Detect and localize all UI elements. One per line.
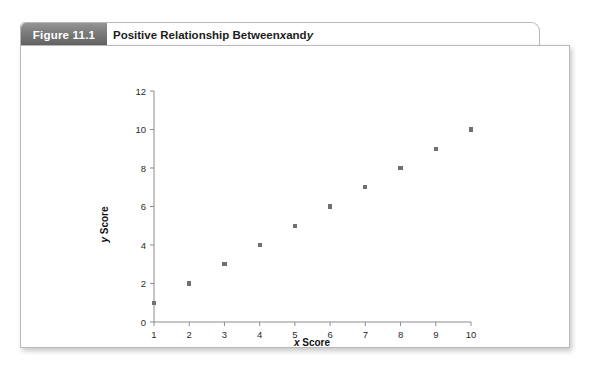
x-axis-title: x Score xyxy=(293,337,331,348)
x-tick-label-9: 9 xyxy=(433,329,438,340)
y-tick-label-12: 12 xyxy=(135,86,146,97)
y-tick-label-8: 8 xyxy=(141,163,146,174)
figure-title: Positive Relationship Between x and y xyxy=(113,23,313,46)
figure-header-bar: Figure 11.1 Positive Relationship Betwee… xyxy=(20,22,540,46)
y-axis-title: y Score xyxy=(99,206,110,244)
figure-number-label: Figure 11.1 xyxy=(33,29,95,41)
y-tick-label-4: 4 xyxy=(141,240,146,251)
x-tick-label-4: 4 xyxy=(257,329,262,340)
data-point xyxy=(152,301,156,305)
figure-title-italic-y: y xyxy=(307,29,313,41)
data-point xyxy=(398,166,402,170)
data-point xyxy=(434,147,438,151)
figure-body-panel: 024681012 12345678910 x Score y Score xyxy=(20,45,570,348)
x-tick-label-3: 3 xyxy=(222,329,227,340)
x-tick-label-1: 1 xyxy=(151,329,156,340)
data-point xyxy=(363,185,367,189)
x-tick-label-7: 7 xyxy=(363,329,368,340)
data-point xyxy=(469,127,473,131)
y-axis-title-rest: Score xyxy=(99,206,110,237)
figure-title-before: Positive Relationship Between xyxy=(113,29,280,41)
data-point xyxy=(187,281,191,285)
data-points xyxy=(152,127,473,304)
figure-title-middle: and xyxy=(286,29,306,41)
y-tick-label-0: 0 xyxy=(141,317,146,328)
x-tick-label-2: 2 xyxy=(187,329,192,340)
x-tick-label-10: 10 xyxy=(466,329,477,340)
y-tick-label-2: 2 xyxy=(141,278,146,289)
scatter-plot-svg: 024681012 12345678910 x Score y Score xyxy=(21,46,571,349)
data-point xyxy=(258,243,262,247)
figure-number-tab: Figure 11.1 xyxy=(21,23,107,46)
x-axis-title-rest: Score xyxy=(299,337,330,348)
x-tick-label-8: 8 xyxy=(398,329,403,340)
data-point xyxy=(328,204,332,208)
y-tick-label-10: 10 xyxy=(135,124,146,135)
figure-card: Figure 11.1 Positive Relationship Betwee… xyxy=(20,22,570,348)
scatter-plot: 024681012 12345678910 x Score y Score xyxy=(21,46,571,349)
y-axis-ticks: 024681012 xyxy=(135,86,154,328)
data-point xyxy=(293,224,297,228)
y-tick-label-6: 6 xyxy=(141,201,146,212)
data-point xyxy=(222,262,226,266)
